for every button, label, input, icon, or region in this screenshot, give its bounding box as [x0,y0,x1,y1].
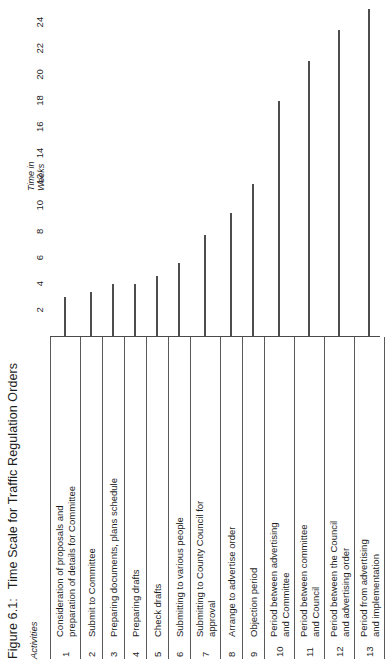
activity-number: 7 [200,637,211,657]
activity-number: 10 [274,637,285,657]
table-row: 13Period from advertising and implementa… [355,337,385,659]
activity-bar [230,213,231,336]
axis-tick-label: 22 [34,43,45,54]
activity-bar [368,9,369,336]
figure-page: Figure 6.1:Time Scale for Traffic Regula… [0,0,386,667]
activities-table: Activities 1Consideration of proposals a… [28,337,380,659]
activity-number: 12 [334,637,345,657]
table-row: 9Objection period [243,337,265,659]
activity-bar [338,30,339,336]
axis-tick-label: 16 [34,121,45,132]
activity-row-list: 1Consideration of proposals and preparat… [50,337,380,659]
activity-label: Consideration of proposals and preparati… [54,486,77,637]
table-row: 11Period between committee and Council [295,337,325,659]
activity-label: Objection period [248,568,260,637]
axis-tick-label: 2 [34,307,45,312]
activity-number: 11 [304,637,315,657]
activity-bar [134,284,135,336]
axis-tick-label: 18 [34,95,45,106]
axis-tick-label: 14 [34,148,45,159]
figure-title: Time Scale for Traffic Regulation Orders [6,363,20,589]
table-row: 3Preparing documents, plans schedule [103,337,125,659]
figure-caption: Figure 6.1:Time Scale for Traffic Regula… [6,363,20,659]
gantt-chart: Activities 1Consideration of proposals a… [28,9,380,659]
time-axis-line [50,336,380,337]
activity-label: Period from advertising and implementati… [358,539,381,637]
table-row: 4Preparing drafts [125,337,147,659]
axis-tick-label: 6 [34,255,45,260]
activity-label: Submitting to County Council for approva… [194,501,217,637]
activity-label: Preparing documents, plans schedule [108,478,120,637]
activity-label: Submit to Committee [86,548,98,637]
axis-tick-label: 10 [34,200,45,211]
activity-number: 6 [174,637,185,657]
activity-bar [308,61,309,336]
activity-number: 13 [364,637,375,657]
table-row: 2Submit to Committee [81,337,103,659]
rotated-figure: Figure 6.1:Time Scale for Traffic Regula… [0,0,386,667]
table-row: 7Submitting to County Council for approv… [191,337,221,659]
activity-bar [64,297,65,336]
activity-bar [278,101,279,336]
table-row: 5Check drafts [147,337,169,659]
axis-tick-label: 4 [34,281,45,286]
activity-number: 1 [60,637,71,657]
activity-label: Check drafts [152,584,164,637]
activity-bar [156,276,157,336]
activity-number: 3 [108,637,119,657]
activity-number: 5 [152,637,163,657]
figure-number: Figure 6.1: [6,598,20,659]
activity-bar [178,263,179,336]
activity-label: Period between committee and Council [298,525,321,637]
table-row: 8Arrange to advertise order [221,337,243,659]
activity-bar [204,235,205,336]
activity-label: Period between advertising and Committee [268,522,291,637]
axis-tick-label: 20 [34,69,45,80]
activity-bar [112,284,113,336]
activities-column-header: Activities [28,622,39,659]
table-row: 12Period between the Council and adverti… [325,337,355,659]
table-row: 10Period between advertising and Committ… [265,337,295,659]
axis-tick-label: 12 [34,174,45,185]
activity-bar [90,292,91,336]
activity-label: Preparing drafts [130,569,142,637]
activity-bar [252,184,253,336]
activity-number: 9 [248,637,259,657]
table-row: 6Submitting to various people [169,337,191,659]
activity-label: Period between the Council and advertisi… [328,521,351,637]
table-row: 1Consideration of proposals and preparat… [51,337,81,659]
activity-label: Submitting to various people [174,517,186,637]
axis-tick-label: 8 [34,229,45,234]
bars-plot-area [50,9,380,336]
activity-label: Arrange to advertise order [226,527,238,637]
axis-tick-label: 24 [34,17,45,28]
activity-number: 8 [226,637,237,657]
activity-number: 4 [130,637,141,657]
activity-number: 2 [86,637,97,657]
